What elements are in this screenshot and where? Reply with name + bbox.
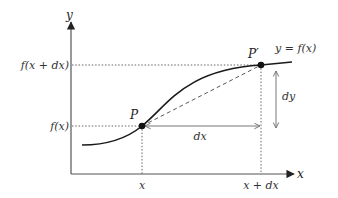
y-axis-label: y: [65, 8, 73, 22]
point-p-prime-label: P′: [247, 47, 259, 61]
point-p-prime: [258, 62, 265, 69]
point-p: [139, 123, 146, 130]
point-p-label: P: [129, 108, 139, 122]
derivative-diagram: y x f(x + dx) f(x) x x + dx P P′ y = f(x…: [0, 0, 338, 198]
x-tick-x: x: [139, 179, 146, 192]
y-tick-f-x-plus-dx: f(x + dx): [20, 59, 69, 72]
secant-line: [142, 65, 261, 126]
y-tick-f-x: f(x): [49, 120, 69, 133]
curve-label: y = f(x): [274, 42, 316, 55]
dy-label: dy: [282, 90, 296, 103]
dx-label: dx: [193, 130, 207, 143]
x-tick-x-plus-dx: x + dx: [243, 179, 279, 192]
function-curve: [82, 62, 292, 145]
x-axis-label: x: [297, 167, 304, 181]
